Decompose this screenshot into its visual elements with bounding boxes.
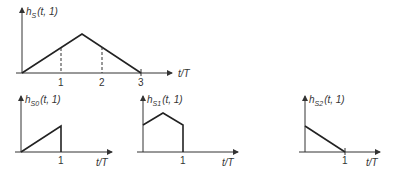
s2-y-label: hS2(t, 1) [309,94,345,107]
s2-tick-label-1: 1 [342,155,348,166]
main-x-label: t/T [178,68,191,79]
s2-curve [305,126,345,152]
s0-curve [21,126,61,152]
s0-y-label: hS0(t, 1) [25,94,61,107]
s0-x-label: t/T [96,157,109,168]
main-plot: 1 2 3 t/T hS(t, 1) [16,6,191,88]
diagram-canvas: 1 2 3 t/T hS(t, 1) 1 t/T hS0(t, 1) 1 t/T… [0,0,394,172]
main-tick-label-3: 3 [138,77,144,88]
main-y-label: hS(t, 1) [26,6,58,19]
s1-y-label: hS1(t, 1) [147,94,183,107]
s1-plot: 1 t/T hS1(t, 1) [137,94,238,168]
s0-tick-label-1: 1 [58,155,64,166]
main-tick-label-2: 2 [99,77,105,88]
s2-plot: 1 t/T hS2(t, 1) [299,94,380,168]
s2-x-label: t/T [366,157,379,168]
main-curve [22,34,141,73]
main-tick-label-1: 1 [58,77,64,88]
s1-x-label: t/T [222,157,235,168]
s1-curve [143,113,183,152]
s0-plot: 1 t/T hS0(t, 1) [15,94,112,168]
s1-tick-label-1: 1 [180,155,186,166]
